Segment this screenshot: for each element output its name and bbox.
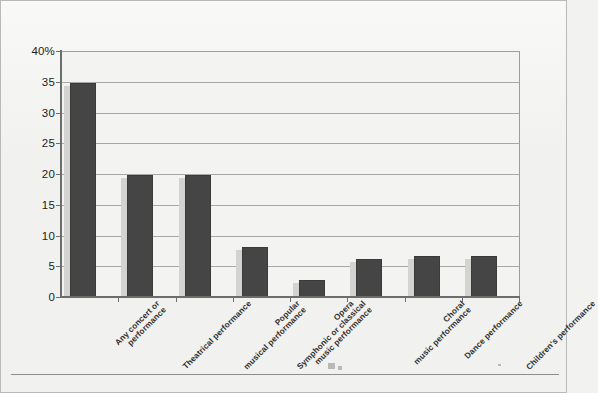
bar-slot xyxy=(347,51,404,297)
x-axis-category-label: Dance performance xyxy=(463,299,525,361)
y-axis-tick xyxy=(56,174,61,175)
y-axis-tick xyxy=(56,143,61,144)
x-axis-category-label-line: Choral xyxy=(405,299,466,360)
bar-slot xyxy=(405,51,462,297)
y-axis-tick xyxy=(56,51,61,52)
y-axis-tick-label: 20 xyxy=(9,168,55,180)
x-axis-category-label-line: Dance performance xyxy=(463,299,525,361)
y-axis-tick-label: 10 xyxy=(9,230,55,242)
y-axis-tick-label: 25 xyxy=(9,137,55,149)
bar-slot xyxy=(290,51,347,297)
bar[interactable] xyxy=(185,175,211,297)
y-axis-tick-label: 40% xyxy=(9,45,55,57)
bar[interactable] xyxy=(471,256,497,297)
bar-slot xyxy=(233,51,290,297)
bar[interactable] xyxy=(242,247,268,297)
scan-artifact xyxy=(498,364,501,366)
x-axis-category-label: Children's performance xyxy=(525,299,598,372)
y-axis-tick-label: 0 xyxy=(9,291,55,303)
y-axis-tick xyxy=(56,205,61,206)
y-axis-tick-label: 5 xyxy=(9,260,55,272)
y-axis-tick xyxy=(56,266,61,267)
bar[interactable] xyxy=(356,259,382,297)
bar[interactable] xyxy=(70,83,96,297)
x-axis-category-label: Any concert orperformance xyxy=(114,299,169,354)
bar-slot xyxy=(118,51,175,297)
bar-slot xyxy=(462,51,519,297)
scan-artifact xyxy=(338,366,342,370)
bar[interactable] xyxy=(127,175,153,297)
y-axis-tick-label: 30 xyxy=(9,107,55,119)
bar-slot xyxy=(176,51,233,297)
scan-artifact xyxy=(328,363,335,369)
bar-slot xyxy=(61,51,118,297)
y-axis-tick xyxy=(56,113,61,114)
x-axis-category-labels: Any concert orperformanceTheatrical perf… xyxy=(61,299,519,379)
y-axis-tick xyxy=(56,82,61,83)
y-axis-tick xyxy=(56,297,61,298)
x-axis-category-label-line: Children's performance xyxy=(525,299,598,372)
x-axis-category-label: Choralmusic performance xyxy=(405,299,473,367)
y-axis-tick-label: 35 xyxy=(9,76,55,88)
y-axis-tick xyxy=(56,236,61,237)
bar-chart: 40%35302520151050 xyxy=(61,51,519,297)
y-axis-tick-label: 15 xyxy=(9,199,55,211)
y-axis-tick-labels: 40%35302520151050 xyxy=(9,51,55,297)
bar[interactable] xyxy=(299,280,325,297)
bar[interactable] xyxy=(414,256,440,297)
bottom-divider-rule xyxy=(11,374,559,375)
